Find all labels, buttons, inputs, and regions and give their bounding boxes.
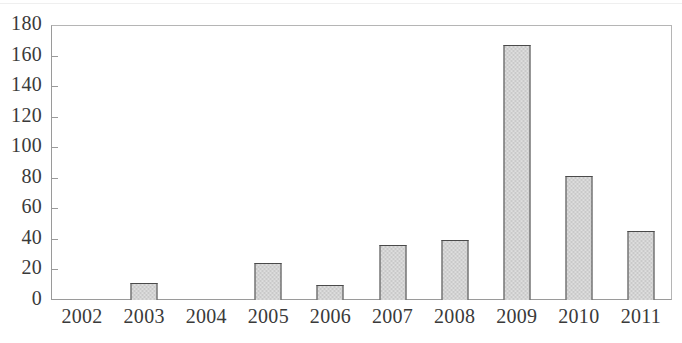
x-axis-tick-label: 2002 (61, 305, 102, 327)
x-axis: 2002200320042005200620072008200920102011 (51, 300, 672, 343)
x-axis-tick-label: 2003 (124, 305, 165, 327)
bar-slot (237, 25, 299, 300)
y-axis-tick-label: 0 (32, 288, 42, 308)
x-axis-tick-label: 2011 (621, 305, 661, 327)
y-axis: 020406080100120140160180 (0, 25, 51, 300)
bar[interactable] (317, 285, 344, 300)
x-axis-tick-label: 2008 (434, 305, 475, 327)
bar[interactable] (441, 240, 468, 300)
bar[interactable] (255, 263, 282, 300)
bar-slot (548, 25, 610, 300)
x-axis-tick-label: 2007 (372, 305, 413, 327)
x-axis-tick-label: 2005 (248, 305, 289, 327)
x-axis-tick-label: 2006 (310, 305, 351, 327)
y-axis-tick-label: 40 (21, 227, 42, 247)
bar-slot (51, 25, 113, 300)
bar-slot (113, 25, 175, 300)
y-axis-tick-label: 180 (11, 13, 42, 33)
y-axis-tick-label: 100 (11, 135, 42, 155)
bar-slot (175, 25, 237, 300)
bar-slot (362, 25, 424, 300)
bar-slot (486, 25, 548, 300)
bar[interactable] (627, 231, 654, 300)
y-axis-tick-label: 120 (11, 105, 42, 125)
bars-layer (51, 25, 672, 300)
x-axis-tick-label: 2004 (186, 305, 227, 327)
bar[interactable] (503, 45, 530, 300)
x-axis-tick-label: 2010 (558, 305, 599, 327)
y-axis-tick-label: 20 (21, 257, 42, 277)
bar[interactable] (131, 283, 158, 300)
y-axis-tick-label: 140 (11, 74, 42, 94)
bar-chart: 020406080100120140160180 200220032004200… (0, 0, 682, 343)
y-axis-tick-label: 60 (21, 196, 42, 216)
scan-artifact-line (0, 3, 682, 4)
x-axis-tick-label: 2009 (496, 305, 537, 327)
bar[interactable] (379, 245, 406, 300)
y-axis-tick-label: 80 (21, 166, 42, 186)
bar-slot (610, 25, 672, 300)
bar-slot (299, 25, 361, 300)
bar[interactable] (565, 176, 592, 300)
bar-slot (424, 25, 486, 300)
y-axis-tick-label: 160 (11, 44, 42, 64)
